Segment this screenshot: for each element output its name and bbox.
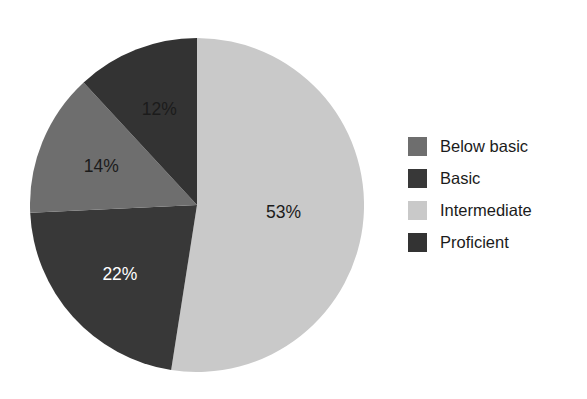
pie-label-below-basic: 14%: [84, 156, 119, 176]
legend-label-proficient: Proficient: [440, 234, 509, 251]
pie-label-basic: 22%: [102, 264, 137, 284]
legend-item-basic[interactable]: Basic: [408, 163, 578, 194]
pie-slice-basic[interactable]: [30, 205, 197, 370]
chart-legend: Below basic Basic Intermediate Proficien…: [408, 131, 578, 259]
legend-item-below-basic[interactable]: Below basic: [408, 131, 578, 162]
legend-item-intermediate[interactable]: Intermediate: [408, 195, 578, 226]
legend-swatch-icon-proficient: [408, 233, 427, 252]
legend-label-basic: Basic: [440, 170, 480, 187]
legend-swatch-icon-below-basic: [408, 137, 427, 156]
pie-svg: 53% 22% 14% 12%: [30, 38, 364, 372]
pie-chart-figure: 53% 22% 14% 12% Below basic Basic Interm…: [0, 0, 587, 399]
pie-label-proficient: 12%: [142, 99, 177, 119]
legend-swatch-icon-intermediate: [408, 201, 427, 220]
legend-item-proficient[interactable]: Proficient: [408, 227, 578, 258]
pie-label-intermediate: 53%: [266, 202, 301, 222]
legend-label-below-basic: Below basic: [440, 138, 528, 155]
pie-chart: 53% 22% 14% 12%: [30, 38, 364, 372]
legend-label-intermediate: Intermediate: [440, 202, 532, 219]
legend-swatch-icon-basic: [408, 169, 427, 188]
